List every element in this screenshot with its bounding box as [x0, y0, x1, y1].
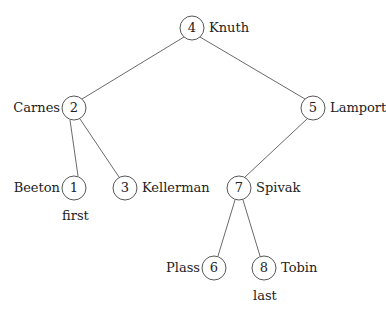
edge-5-7 [245, 119, 307, 177]
edge-7-6 [218, 200, 235, 256]
node-key: 7 [227, 181, 251, 195]
node-key: 6 [202, 261, 226, 275]
last-note-label: last [253, 289, 277, 303]
node-key: 2 [62, 101, 86, 115]
node-name-label: Beeton [14, 181, 60, 195]
edge-4-5 [200, 37, 305, 99]
first-note-label: first [62, 209, 89, 223]
edge-4-2 [82, 37, 184, 99]
node-key: 1 [62, 181, 86, 195]
node-key: 3 [113, 181, 137, 195]
node-key: 4 [180, 21, 204, 35]
node-name-label: Spivak [256, 181, 300, 195]
node-name-label: Lamport [330, 101, 386, 115]
node-name-label: Knuth [209, 21, 249, 35]
node-name-label: Plass [166, 261, 200, 275]
node-key: 8 [252, 261, 276, 275]
edge-2-3 [80, 119, 119, 177]
node-name-label: Tobin [281, 261, 317, 275]
node-name-label: Carnes [13, 101, 60, 115]
node-key: 5 [301, 101, 325, 115]
edge-7-8 [243, 200, 260, 256]
edge-2-1 [70, 120, 78, 176]
node-name-label: Kellerman [142, 181, 210, 195]
